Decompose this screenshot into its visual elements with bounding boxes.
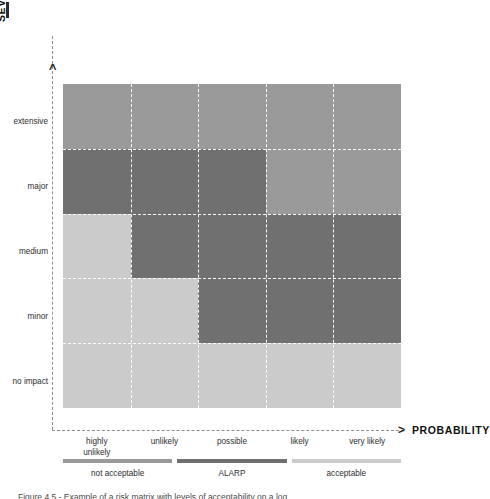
matrix-cell-extensive-unlikely: [131, 84, 199, 149]
probability-tick-likely: likely: [266, 437, 334, 458]
legend-item-alarp: ALARP: [177, 459, 286, 478]
matrix-cell-extensive-possible: [198, 84, 266, 149]
probability-axis-line: [52, 430, 404, 431]
severity-tick-no-impact: no impact: [0, 377, 48, 386]
matrix-cell-minor-unlikely: [131, 278, 199, 343]
matrix-cell-major-likely: [266, 149, 334, 214]
probability-tick-very-likely: very likely: [333, 437, 401, 458]
matrix-cell-extensive-very-likely: [333, 84, 401, 149]
severity-tick-medium: medium: [0, 247, 48, 256]
probability-axis-title: PROBABILITY: [412, 424, 490, 436]
matrix-cell-medium-unlikely: [131, 214, 199, 279]
matrix-cell-medium-very-likely: [333, 214, 401, 279]
severity-axis-line: [52, 36, 53, 430]
matrix-cell-no-impact-highly-unlikely: [63, 343, 131, 408]
matrix-cell-major-possible: [198, 149, 266, 214]
legend-swatch-acceptable: [292, 459, 401, 463]
severity-axis-arrow-icon: >: [46, 60, 60, 74]
figure-caption: Figure 4.5 - Example of a risk matrix wi…: [18, 492, 458, 499]
legend-swatch-not-acceptable: [63, 459, 172, 463]
matrix-cell-no-impact-very-likely: [333, 343, 401, 408]
probability-tick-possible: possible: [198, 437, 266, 458]
probability-tick-labels: highlyunlikely unlikely possible likely …: [63, 437, 401, 458]
matrix-cell-minor-likely: [266, 278, 334, 343]
severity-tick-extensive: extensive: [0, 117, 48, 126]
matrix-cell-no-impact-unlikely: [131, 343, 199, 408]
probability-axis-arrow-icon: >: [398, 423, 405, 437]
matrix-cell-no-impact-possible: [198, 343, 266, 408]
legend-swatch-alarp: [177, 459, 286, 463]
probability-tick-highly-unlikely: highlyunlikely: [63, 437, 131, 458]
matrix-cell-major-highly-unlikely: [63, 149, 131, 214]
probability-tick-unlikely: unlikely: [131, 437, 199, 458]
matrix-cell-minor-highly-unlikely: [63, 278, 131, 343]
matrix-cell-extensive-highly-unlikely: [63, 84, 131, 149]
legend-item-acceptable: acceptable: [292, 459, 401, 478]
severity-tick-major: major: [0, 182, 48, 191]
legend-label-alarp: ALARP: [219, 469, 246, 478]
matrix-cell-no-impact-likely: [266, 343, 334, 408]
matrix-cell-medium-possible: [198, 214, 266, 279]
matrix-cell-extensive-likely: [266, 84, 334, 149]
matrix-cell-major-unlikely: [131, 149, 199, 214]
risk-matrix-grid: [63, 84, 401, 408]
severity-tick-labels: extensive major medium minor no impact: [0, 0, 48, 499]
legend-label-acceptable: acceptable: [327, 469, 367, 478]
matrix-cell-minor-very-likely: [333, 278, 401, 343]
legend-item-not-acceptable: not acceptable: [63, 459, 172, 478]
matrix-cell-major-very-likely: [333, 149, 401, 214]
matrix-cell-medium-likely: [266, 214, 334, 279]
legend-label-not-acceptable: not acceptable: [91, 469, 144, 478]
matrix-cell-minor-possible: [198, 278, 266, 343]
severity-tick-minor: minor: [0, 312, 48, 321]
risk-legend: not acceptable ALARP acceptable: [63, 459, 401, 478]
matrix-cell-medium-highly-unlikely: [63, 214, 131, 279]
